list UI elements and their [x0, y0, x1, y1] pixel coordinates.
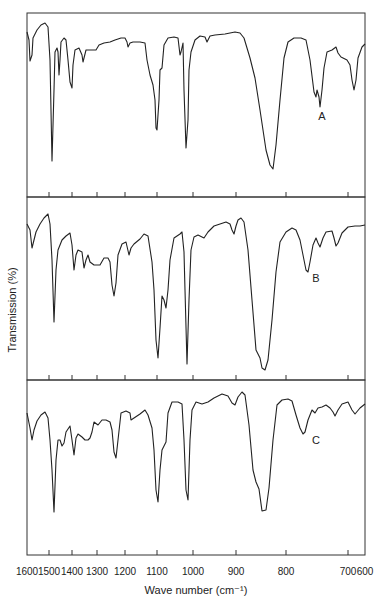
panel-frame	[27, 13, 365, 197]
spectrum-trace-c	[27, 392, 365, 512]
ir-spectra-chart	[0, 0, 381, 603]
panel-a	[27, 13, 365, 197]
y-axis-label: Transmission (%)	[6, 267, 18, 352]
x-tick-label: 1300	[86, 566, 108, 577]
panel-c	[27, 380, 365, 555]
spectrum-trace-b	[27, 214, 365, 370]
panel-b	[27, 197, 365, 380]
panel-label-a: A	[318, 110, 325, 122]
x-tick-label: 1600	[16, 566, 38, 577]
x-tick-label: 800	[278, 566, 295, 577]
panel-label-c: C	[312, 434, 320, 446]
x-tick-label: 1100	[146, 566, 168, 577]
x-tick-label: 1000	[182, 566, 204, 577]
x-tick-label: 900	[228, 566, 245, 577]
x-tick-label: 600	[357, 566, 374, 577]
panel-label-b: B	[312, 272, 319, 284]
panel-frame	[27, 380, 365, 555]
x-tick-label: 700	[340, 566, 357, 577]
x-tick-label: 1500	[38, 566, 60, 577]
x-tick-label: 1400	[61, 566, 83, 577]
x-tick-label: 1200	[114, 566, 136, 577]
spectrum-panels	[27, 13, 365, 555]
spectrum-trace-a	[27, 23, 365, 169]
x-axis-label: Wave number (cm⁻¹)	[145, 584, 248, 597]
panel-frame	[27, 197, 365, 380]
